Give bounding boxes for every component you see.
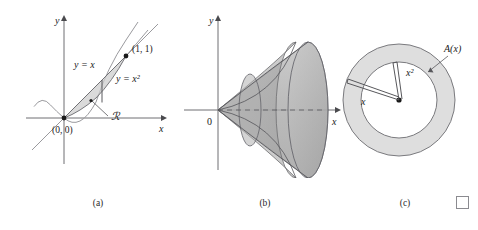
region-label-leader (92, 101, 108, 116)
panel-b-y-axis-label: y (208, 15, 214, 26)
panel-c-washer-cross-section: A(x) x x² (336, 28, 474, 178)
label-y-equals-x-squared: y = x² (115, 73, 141, 84)
panel-a-x-axis-label: x (158, 123, 164, 134)
label-y-equals-x: y = x (73, 59, 95, 70)
panel-b-solid-of-revolution: y x 0 (176, 6, 352, 178)
label-region-R: ℛ (111, 110, 121, 122)
caption-panel-a: (a) (0, 192, 196, 210)
end-of-proof-marker (456, 196, 469, 209)
label-outer-radius-x: x (360, 96, 366, 107)
panel-a-region-plot: y x y = x y = x² ℛ (0, 0) (1, 1) (12, 6, 180, 178)
caption-panel-b: (b) (180, 192, 350, 210)
region-label-anchor-dot (89, 99, 92, 102)
panel-a-y-axis-label: y (54, 15, 60, 26)
label-inner-radius-x-squared: x² (405, 67, 414, 78)
label-point-origin: (0, 0) (52, 125, 73, 136)
caption-panel-c: (c) (340, 192, 470, 210)
label-point-one-one: (1, 1) (132, 44, 153, 55)
point-origin-dot (62, 116, 67, 121)
label-area-of-x: A(x) (443, 43, 462, 55)
panel-b-origin-label: 0 (207, 116, 212, 127)
point-one-one-dot (124, 54, 129, 59)
figure-root: y x y = x y = x² ℛ (0, 0) (1, 1) (0, 0, 478, 230)
